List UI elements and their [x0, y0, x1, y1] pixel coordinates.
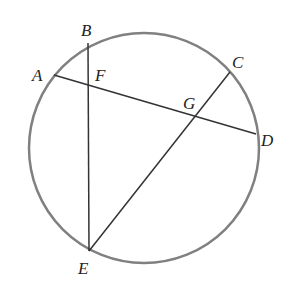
label-a: A [31, 66, 43, 85]
label-g: G [183, 94, 195, 113]
label-d: D [260, 131, 274, 150]
label-e: E [77, 259, 89, 278]
circle-diagram: A B C D E F G [0, 0, 287, 290]
label-f: F [94, 66, 106, 85]
chord-ce [89, 72, 230, 251]
chord-be [88, 43, 89, 251]
label-b: B [81, 21, 92, 40]
label-c: C [232, 53, 244, 72]
chord-ad [54, 75, 256, 134]
circle [29, 33, 259, 263]
